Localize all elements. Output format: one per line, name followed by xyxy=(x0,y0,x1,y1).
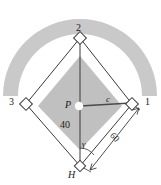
label-angle-gamma: γ xyxy=(82,140,86,149)
label-distance-40: 40 xyxy=(60,120,70,130)
label-base-home: H xyxy=(68,170,75,180)
label-base-third: 3 xyxy=(9,97,14,107)
figure-canvas: 2 1 3 H P c 40 60 γ xyxy=(0,0,161,185)
label-base-second: 2 xyxy=(76,23,81,33)
label-segment-c: c xyxy=(106,95,110,104)
label-base-first: 1 xyxy=(145,97,150,107)
pitchers-mound xyxy=(75,102,83,110)
label-point-pitcher: P xyxy=(65,100,71,110)
